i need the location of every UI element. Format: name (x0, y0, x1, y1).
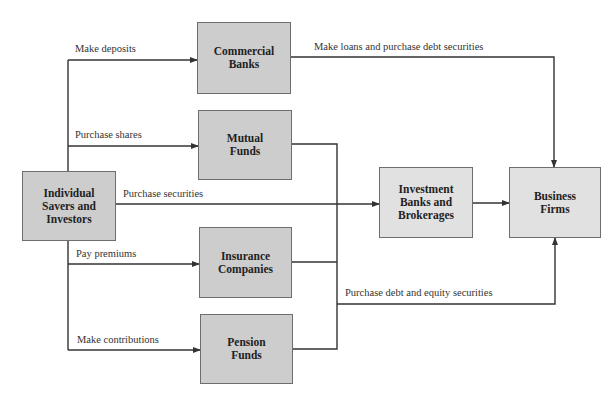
node-commercial-banks: Commercial Banks (197, 22, 291, 94)
arrow-make-loans (291, 57, 554, 167)
edge-label-make-contributions: Make contributions (77, 334, 159, 346)
edge-label-purchase-securities: Purchase securities (123, 188, 203, 200)
edge-label-pay-premiums: Pay premiums (76, 248, 136, 260)
node-business-firms: Business Firms (509, 167, 601, 238)
edge-label-purchase-shares: Purchase shares (75, 129, 142, 141)
node-insurance-companies: Insurance Companies (199, 227, 292, 298)
node-label: Pension Funds (227, 336, 265, 362)
node-investment-banks: Investment Banks and Brokerages (379, 167, 473, 238)
edge-label-make-loans: Make loans and purchase debt securities (314, 41, 483, 53)
node-mutual-funds: Mutual Funds (198, 110, 292, 180)
node-label: Individual Savers and Investors (42, 187, 96, 226)
node-label: Mutual Funds (227, 132, 263, 158)
node-label: Investment Banks and Brokerages (398, 183, 454, 222)
node-individual-savers: Individual Savers and Investors (22, 171, 116, 241)
node-label: Insurance Companies (218, 250, 273, 276)
node-label: Business Firms (534, 190, 576, 216)
edge-label-make-deposits: Make deposits (75, 43, 136, 55)
node-label: Commercial Banks (214, 45, 274, 71)
edge-label-purchase-debt-equity: Purchase debt and equity securities (345, 287, 493, 299)
node-pension-funds: Pension Funds (200, 314, 293, 384)
